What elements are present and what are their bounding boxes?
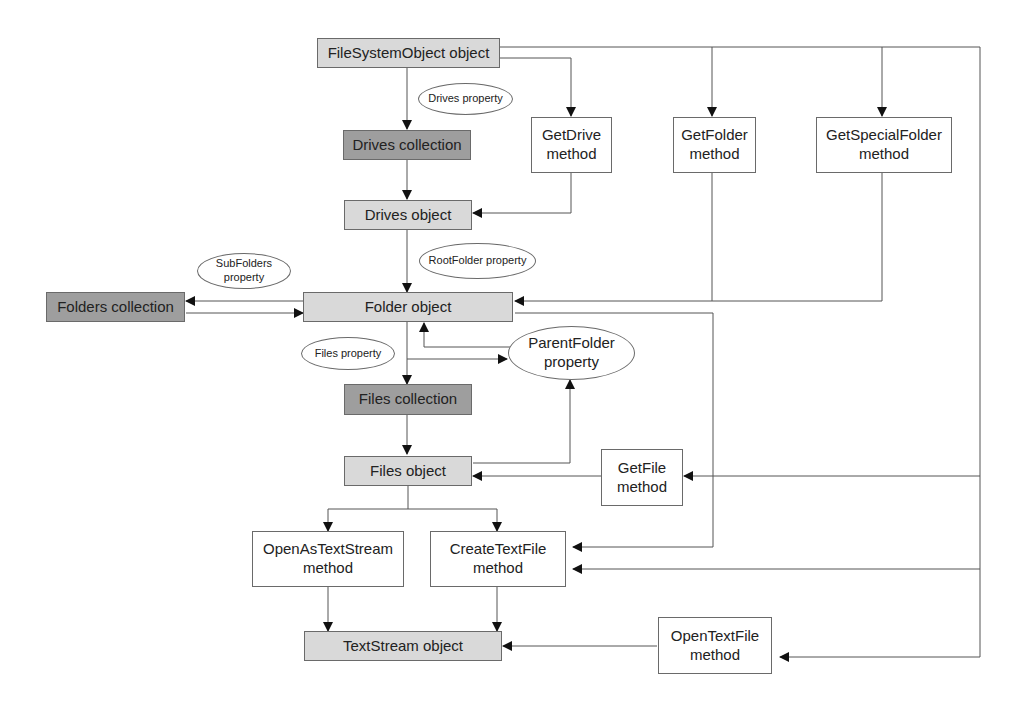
parentfolder-property: ParentFolderproperty xyxy=(508,326,635,380)
node-label: TextStream object xyxy=(343,637,463,656)
getfile-method-node: GetFilemethod xyxy=(601,449,683,506)
opentextfile-method-node: OpenTextFilemethod xyxy=(658,617,772,674)
subfolders-property: SubFoldersproperty xyxy=(197,253,291,289)
drives-property: Drives property xyxy=(418,83,513,115)
drives-object-node: Drives object xyxy=(344,200,472,230)
node-label: CreateTextFile xyxy=(450,540,547,559)
files-property: Files property xyxy=(301,337,395,370)
property-label: property xyxy=(224,271,264,285)
getspecialfolder-method-node: GetSpecialFoldermethod xyxy=(816,117,952,173)
node-label: method xyxy=(690,646,740,665)
node-label: OpenAsTextStream xyxy=(263,540,393,559)
folder-object-node: Folder object xyxy=(303,292,513,322)
drives-collection-node: Drives collection xyxy=(343,130,471,160)
node-label: GetFolder xyxy=(681,126,748,145)
rootfolder-property: RootFolder property xyxy=(419,243,536,279)
property-label: Drives property xyxy=(428,92,503,106)
node-label: Files object xyxy=(370,462,446,481)
node-label: OpenTextFile xyxy=(671,627,759,646)
node-label: FileSystemObject object xyxy=(328,44,490,63)
getdrive-method-node: GetDrivemethod xyxy=(531,117,612,173)
openastextstream-method-node: OpenAsTextStreammethod xyxy=(252,531,404,587)
node-label: Drives object xyxy=(365,206,452,225)
property-label: property xyxy=(544,353,599,372)
node-label: method xyxy=(859,145,909,164)
folders-collection-node: Folders collection xyxy=(46,292,185,322)
node-label: method xyxy=(617,478,667,497)
node-label: Files collection xyxy=(359,390,457,409)
property-label: Files property xyxy=(315,347,382,361)
node-label: method xyxy=(546,145,596,164)
diagram-canvas: FileSystemObject object Drives property … xyxy=(0,0,1018,705)
node-label: GetSpecialFolder xyxy=(826,126,942,145)
node-label: method xyxy=(303,559,353,578)
getfolder-method-node: GetFoldermethod xyxy=(673,117,756,173)
files-object-node: Files object xyxy=(344,456,472,486)
node-label: Folders collection xyxy=(57,298,174,317)
node-label: Drives collection xyxy=(352,136,461,155)
node-label: method xyxy=(473,559,523,578)
node-label: Folder object xyxy=(365,298,452,317)
node-label: GetFile xyxy=(618,459,666,478)
node-label: method xyxy=(689,145,739,164)
files-collection-node: Files collection xyxy=(344,384,472,415)
property-label: RootFolder property xyxy=(429,254,527,268)
createtextfile-method-node: CreateTextFilemethod xyxy=(430,531,566,587)
filesystemobject-node: FileSystemObject object xyxy=(317,38,500,68)
property-label: SubFolders xyxy=(216,257,272,271)
property-label: ParentFolder xyxy=(528,334,615,353)
node-label: GetDrive xyxy=(542,126,601,145)
textstream-object-node: TextStream object xyxy=(304,631,502,661)
